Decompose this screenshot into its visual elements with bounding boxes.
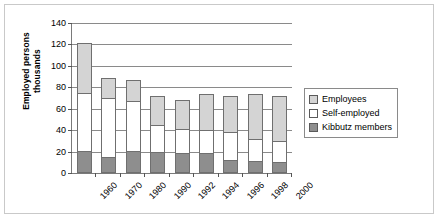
y-tick-label: 140 xyxy=(51,18,66,28)
bar-segment xyxy=(175,129,190,153)
legend-swatch-icon xyxy=(309,109,318,118)
x-tick-label: 1992 xyxy=(196,180,217,201)
legend-item: Kibbutz members xyxy=(309,120,392,134)
bar-segment xyxy=(248,94,263,139)
legend-item: Employees xyxy=(309,92,392,106)
y-tick-label: 80 xyxy=(56,82,66,92)
gridline xyxy=(72,66,292,67)
bar-segment xyxy=(199,153,214,173)
gridline xyxy=(72,44,292,45)
x-tick-mark xyxy=(120,173,121,177)
bar-segment xyxy=(150,96,165,125)
y-tick-mark xyxy=(68,87,72,88)
legend-swatch-icon xyxy=(309,95,318,104)
bar-segment xyxy=(248,161,263,173)
x-tick-label: 1998 xyxy=(269,180,290,201)
bar-1970 xyxy=(101,78,116,173)
bar-1980 xyxy=(126,80,141,173)
y-tick-mark xyxy=(68,66,72,67)
bar-segment xyxy=(150,125,165,152)
bar-segment xyxy=(223,96,238,132)
y-tick-mark xyxy=(68,173,72,174)
x-tick-label: 2000 xyxy=(294,180,315,201)
bar-1998 xyxy=(248,94,263,173)
bar-segment xyxy=(272,141,287,162)
bar-segment xyxy=(175,153,190,173)
y-axis-title-line-2: thousands xyxy=(32,1,43,141)
y-axis-title-line-1: Employed persons xyxy=(21,1,32,141)
y-tick-label: 0 xyxy=(61,168,66,178)
legend-label: Self-employed xyxy=(322,108,380,118)
legend-swatch-icon xyxy=(309,123,318,132)
bar-segment xyxy=(223,132,238,160)
bar-segment xyxy=(126,101,141,150)
x-tick-label: 1990 xyxy=(171,180,192,201)
bar-1960 xyxy=(77,43,92,173)
x-tick-mark xyxy=(193,173,194,177)
plot-region: 140120100806040200 196019701980199019921… xyxy=(71,23,291,177)
legend-label: Kibbutz members xyxy=(322,122,392,132)
bar-segment xyxy=(101,157,116,173)
bar-segment xyxy=(248,139,263,162)
x-tick-label: 1996 xyxy=(245,180,266,201)
bar-1994 xyxy=(199,94,214,173)
y-tick-label: 120 xyxy=(51,39,66,49)
bar-1996 xyxy=(223,96,238,173)
bar-segment xyxy=(126,80,141,101)
y-tick-label: 100 xyxy=(51,61,66,71)
y-tick-label: 60 xyxy=(56,104,66,114)
bar-segment xyxy=(77,151,92,174)
bar-segment xyxy=(150,152,165,173)
y-axis-title: Employed persons thousands xyxy=(21,1,49,141)
bar-segment xyxy=(272,162,287,173)
bar-1992 xyxy=(175,100,190,173)
y-tick-mark xyxy=(68,152,72,153)
bar-segment xyxy=(101,98,116,157)
x-tick-label: 1980 xyxy=(147,180,168,201)
y-tick-mark xyxy=(68,23,72,24)
chart-frame: Employed persons thousands 1401201008060… xyxy=(4,4,434,214)
x-tick-label: 1994 xyxy=(220,180,241,201)
bar-segment xyxy=(199,94,214,130)
x-tick-label: 1970 xyxy=(123,180,144,201)
y-tick-mark xyxy=(68,44,72,45)
plot-area xyxy=(71,23,292,174)
x-tick-mark xyxy=(218,173,219,177)
bar-2000 xyxy=(272,96,287,173)
y-tick-label: 40 xyxy=(56,125,66,135)
x-tick-mark xyxy=(169,173,170,177)
x-tick-mark xyxy=(291,173,292,177)
legend-item: Self-employed xyxy=(309,106,392,120)
x-tick-label: 1960 xyxy=(98,180,119,201)
y-tick-mark xyxy=(68,130,72,131)
x-tick-mark xyxy=(95,173,96,177)
bar-segment xyxy=(199,130,214,153)
bar-1990 xyxy=(150,96,165,173)
x-tick-mark xyxy=(144,173,145,177)
legend-label: Employees xyxy=(322,94,367,104)
bar-segment xyxy=(272,96,287,141)
bar-segment xyxy=(101,78,116,98)
bar-segment xyxy=(175,100,190,129)
bar-segment xyxy=(223,160,238,173)
x-tick-mark xyxy=(242,173,243,177)
bar-segment xyxy=(77,43,92,92)
y-tick-mark xyxy=(68,109,72,110)
bar-segment xyxy=(126,151,141,174)
y-tick-label: 20 xyxy=(56,147,66,157)
gridline xyxy=(72,23,292,24)
x-tick-mark xyxy=(267,173,268,177)
bar-segment xyxy=(77,93,92,151)
chart-legend: EmployeesSelf-employedKibbutz members xyxy=(304,88,398,138)
